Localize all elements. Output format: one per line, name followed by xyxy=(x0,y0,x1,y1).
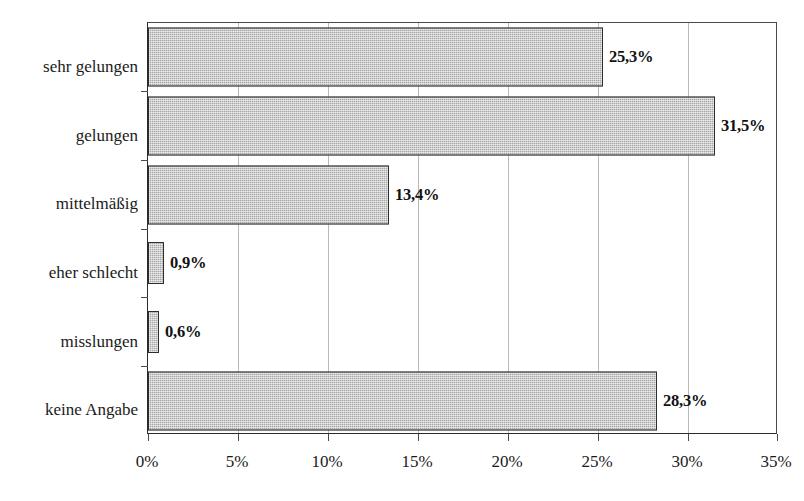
data-label-sehr-gelungen: 25,3% xyxy=(609,47,653,67)
x-axis-tick-0 xyxy=(148,434,149,441)
bar-misslungen[interactable] xyxy=(148,311,159,353)
data-label-eher-schlecht: 0,9% xyxy=(170,253,206,273)
y-axis-tick xyxy=(141,160,148,161)
y-axis-tick xyxy=(141,229,148,230)
bar-band-eher-schlecht: 0,9% xyxy=(148,229,776,298)
y-axis-label-text: keine Angabe xyxy=(45,400,138,419)
y-axis-label-gelungen: gelungen xyxy=(0,127,138,144)
y-axis-tick xyxy=(141,297,148,298)
y-axis-tick xyxy=(141,91,148,92)
x-axis-tick-15 xyxy=(418,434,419,441)
data-label-mittelmaessig: 13,4% xyxy=(395,185,439,205)
bar-band-misslungen: 0,6% xyxy=(148,298,776,367)
x-axis-tick-label-15: 15% xyxy=(377,452,457,472)
y-axis-label-keine-angabe: keine Angabe xyxy=(0,401,138,418)
y-axis-label-mittelmaessig: mittelmäßig xyxy=(0,195,138,212)
data-label-keine-angabe: 28,3% xyxy=(663,391,707,411)
y-axis-label-text: eher schlecht xyxy=(49,263,138,282)
bar-keine-angabe[interactable] xyxy=(148,371,657,430)
x-axis-tick-35 xyxy=(777,434,778,441)
y-axis-label-eher-schlecht: eher schlecht xyxy=(0,264,138,281)
y-axis-label-text: sehr gelungen xyxy=(43,57,138,76)
x-axis-tick-label-35: 35% xyxy=(736,452,804,472)
y-axis-label-text: mittelmäßig xyxy=(56,194,138,213)
y-axis-label-text: gelungen xyxy=(76,126,138,145)
bar-mittelmaessig[interactable] xyxy=(148,165,389,224)
x-axis-tick-label-10: 10% xyxy=(287,452,367,472)
x-axis-tick-label-25: 25% xyxy=(557,452,637,472)
x-axis-tick-label-30: 30% xyxy=(647,452,727,472)
x-axis-tick-label-20: 20% xyxy=(467,452,547,472)
x-axis-tick-10 xyxy=(328,434,329,441)
y-axis-tick xyxy=(141,366,148,367)
x-axis-tick-30 xyxy=(688,434,689,441)
bar-band-mittelmaessig: 13,4% xyxy=(148,160,776,229)
bar-sehr-gelungen[interactable] xyxy=(148,28,603,87)
x-axis-tick-label-0: 0% xyxy=(107,452,187,472)
y-axis-label-misslungen: misslungen xyxy=(0,333,138,350)
x-axis-tick-20 xyxy=(508,434,509,441)
y-axis-label-text: misslungen xyxy=(61,332,138,351)
bar-chart: sehr gelungen gelungen mittelmäßig eher … xyxy=(0,0,804,501)
x-axis-tick-5 xyxy=(238,434,239,441)
y-axis-label-sehr-gelungen: sehr gelungen xyxy=(0,58,138,75)
bar-gelungen[interactable] xyxy=(148,96,715,155)
x-axis-tick-25 xyxy=(598,434,599,441)
bar-band-sehr-gelungen: 25,3% xyxy=(148,23,776,92)
data-label-misslungen: 0,6% xyxy=(165,322,201,342)
bar-band-keine-angabe: 28,3% xyxy=(148,366,776,435)
bar-eher-schlecht[interactable] xyxy=(148,242,164,284)
plot-area: 25,3% 31,5% 13,4% 0,9% 0,6% 28,3% xyxy=(147,22,777,434)
data-label-gelungen: 31,5% xyxy=(721,116,765,136)
bar-band-gelungen: 31,5% xyxy=(148,92,776,161)
x-axis-tick-label-5: 5% xyxy=(197,452,277,472)
